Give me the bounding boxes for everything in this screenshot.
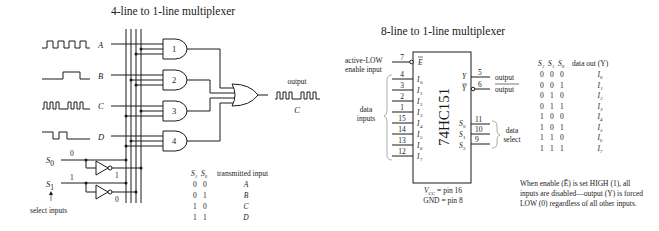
svg-text:D: D bbox=[242, 213, 249, 222]
svg-text:A: A bbox=[243, 180, 249, 189]
truth-table-cell: 0 bbox=[550, 112, 554, 121]
waveform-d-icon bbox=[42, 132, 90, 139]
svg-text:S₀: S₀ bbox=[201, 169, 208, 178]
note-line-2: inputs are disabled—output (Y) is forced bbox=[520, 189, 643, 198]
truth-table-cell: 0 bbox=[560, 133, 564, 142]
waveform-b-icon bbox=[42, 72, 90, 79]
enable-label-line2: enable input bbox=[345, 65, 383, 74]
truth-table-cell: 1 bbox=[560, 123, 564, 132]
select-inputs-caption: select inputs bbox=[30, 206, 67, 215]
data-inputs-label-line1: data bbox=[360, 105, 373, 114]
multiplexer-figure: 4-line to 1-line multiplexer A B C D bbox=[0, 0, 659, 231]
svg-text:data out (Y): data out (Y) bbox=[572, 59, 609, 68]
truth-table-cell: 0 bbox=[550, 123, 554, 132]
note-line-1: When enable (Ē) is set HIGH (1), all bbox=[520, 179, 630, 188]
chip-name: 74HC151 bbox=[436, 88, 452, 146]
svg-text:10: 10 bbox=[475, 125, 483, 134]
s1-inv-value: 0 bbox=[115, 195, 119, 204]
svg-text:1: 1 bbox=[193, 202, 197, 211]
svg-text:1: 1 bbox=[172, 44, 176, 54]
s1-label: S1 bbox=[46, 179, 54, 192]
s0-inv-value: 1 bbox=[115, 171, 119, 180]
enable-pin: 7 bbox=[400, 53, 404, 62]
truth-table-cell: 1 bbox=[540, 123, 544, 132]
vcc-label: VCC = pin 16 bbox=[424, 186, 462, 196]
right-diagram-8to1-mux: 8-line to 1-line multiplexer 74HC151 act… bbox=[345, 25, 643, 208]
svg-text:3: 3 bbox=[400, 81, 404, 90]
truth-table-cell: 1 bbox=[560, 144, 564, 153]
truth-table-cell: I₂ bbox=[596, 91, 602, 100]
left-title: 4-line to 1-line multiplexer bbox=[111, 5, 235, 18]
data-input-pins: 4 I 0 3 I 1 2 I 2 1 I 3 15 I 4 14 I 5 13 bbox=[392, 70, 423, 162]
svg-text:3: 3 bbox=[172, 106, 176, 116]
enable-label-line1: active-LOW bbox=[345, 56, 383, 65]
svg-text:12: 12 bbox=[398, 147, 406, 156]
truth-table-cell: 1 bbox=[550, 102, 554, 111]
input-label-c: C bbox=[98, 101, 104, 111]
truth-table-cell: 0 bbox=[540, 91, 544, 100]
truth-table-cell: I₄ bbox=[596, 112, 602, 121]
truth-table-cell: 1 bbox=[560, 102, 564, 111]
truth-table-cell: 0 bbox=[540, 81, 544, 90]
svg-text:1: 1 bbox=[203, 213, 207, 222]
and-gate-4: 4 bbox=[163, 131, 187, 151]
input-label-b: B bbox=[98, 71, 103, 81]
data-inputs-brace bbox=[384, 75, 392, 160]
truth-table-cell: 0 bbox=[540, 70, 544, 79]
truth-table-cell: 1 bbox=[550, 91, 554, 100]
svg-text:9: 9 bbox=[475, 135, 479, 144]
truth-table-cell: 0 bbox=[540, 102, 544, 111]
up-arrow-icon bbox=[49, 191, 53, 201]
truth-table-cell: 1 bbox=[550, 133, 554, 142]
and-gate-2: 2 bbox=[163, 70, 187, 90]
svg-text:2: 2 bbox=[400, 92, 404, 101]
data-inputs-label-line2: inputs bbox=[357, 114, 375, 123]
svg-text:2: 2 bbox=[172, 75, 176, 85]
output-waveform-icon bbox=[275, 92, 320, 99]
svg-text:0: 0 bbox=[203, 202, 207, 211]
and-gate-3: 3 bbox=[163, 101, 187, 121]
truth-table-cell: I₃ bbox=[596, 102, 602, 111]
s0-value: 0 bbox=[70, 149, 74, 158]
truth-table-cell: 0 bbox=[560, 70, 564, 79]
svg-text:0: 0 bbox=[203, 180, 207, 189]
svg-text:6: 6 bbox=[478, 80, 482, 89]
svg-text:4: 4 bbox=[400, 70, 404, 79]
truth-table-cell: 1 bbox=[540, 133, 544, 142]
data-select-label-line2: select bbox=[503, 135, 521, 144]
output-signal-label: C bbox=[294, 105, 300, 115]
truth-table-cell: I₅ bbox=[596, 123, 602, 132]
and-gate-1: 1 bbox=[163, 39, 187, 59]
svg-text:output: output bbox=[495, 85, 515, 94]
or-gate bbox=[232, 84, 258, 106]
svg-text:S₂: S₂ bbox=[538, 59, 545, 68]
svg-text:0: 0 bbox=[193, 180, 197, 189]
input-label-d: D bbox=[97, 132, 105, 142]
truth-table-cell: 0 bbox=[550, 81, 554, 90]
left-truth-table: S₁ S₀ transmitted input 0 0 A 0 1 B 1 0 … bbox=[191, 169, 269, 222]
svg-text:13: 13 bbox=[398, 136, 406, 145]
right-truth-table-rows: 000I₀001I₁010I₂011I₃100I₄101I₅110I₆111I₇ bbox=[540, 70, 603, 153]
truth-table-cell: 0 bbox=[550, 70, 554, 79]
left-diagram-4to1-mux: 4-line to 1-line multiplexer A B C D bbox=[30, 5, 320, 222]
waveform-a-icon bbox=[42, 41, 90, 48]
truth-table-cell: 1 bbox=[550, 144, 554, 153]
inverter-s1 bbox=[96, 185, 112, 199]
truth-table-cell: I₇ bbox=[596, 144, 602, 153]
data-select-brace bbox=[492, 121, 500, 148]
enable-pin-name: E bbox=[417, 58, 423, 67]
svg-text:11: 11 bbox=[475, 115, 482, 124]
svg-text:5: 5 bbox=[478, 68, 482, 77]
svg-text:1: 1 bbox=[193, 213, 197, 222]
data-select-label-line1: data bbox=[506, 126, 519, 135]
svg-text:transmitted input: transmitted input bbox=[217, 169, 269, 178]
svg-text:S₀: S₀ bbox=[558, 59, 565, 68]
svg-text:1: 1 bbox=[400, 103, 404, 112]
svg-text:S₁: S₁ bbox=[191, 169, 198, 178]
gnd-label: GND = pin 8 bbox=[423, 196, 463, 205]
waveform-c-icon bbox=[42, 102, 90, 109]
inverter-s0 bbox=[96, 161, 112, 175]
svg-text:15: 15 bbox=[398, 114, 406, 123]
right-truth-table: S₂ S₁ S₀ data out (Y) bbox=[538, 59, 609, 68]
svg-text:C: C bbox=[243, 202, 249, 211]
